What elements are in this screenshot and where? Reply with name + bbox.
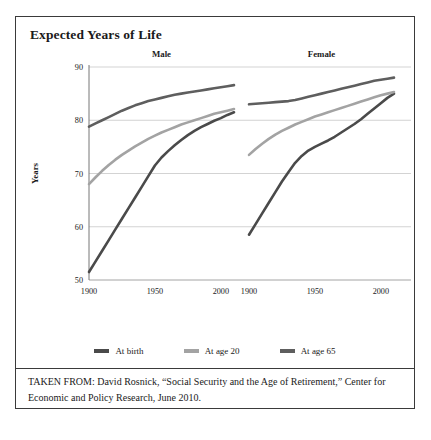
figure-title: Expected Years of Life	[30, 27, 162, 43]
legend-label: At birth	[115, 346, 143, 356]
series-line-female-at-age-65	[249, 78, 394, 105]
legend-label: At age 65	[301, 346, 336, 356]
x-tick-label-male-1950: 1950	[147, 287, 163, 296]
x-tick-label-female-1900: 1900	[241, 287, 257, 296]
legend-swatch-icon	[94, 349, 109, 352]
legend-swatch-icon	[184, 349, 199, 352]
legend-swatch-icon	[280, 349, 295, 352]
y-tick-label-50: 50	[75, 276, 83, 285]
panel-title-male: Male	[152, 49, 171, 59]
x-tick-label-male-2000: 2000	[213, 287, 229, 296]
y-tick-label-70: 70	[75, 170, 83, 179]
source-note: TAKEN FROM: David Rosnick, “Social Secur…	[28, 374, 402, 406]
y-axis-title: Years	[30, 162, 40, 184]
legend-label: At age 20	[205, 346, 240, 356]
chart-legend: At birthAt age 20At age 65	[16, 339, 414, 363]
y-tick-label-80: 80	[75, 116, 83, 125]
source-divider	[16, 368, 414, 369]
y-tick-label-60: 60	[75, 223, 83, 232]
legend-item-at-age-20[interactable]: At age 20	[184, 346, 240, 356]
x-tick-label-female-1950: 1950	[307, 287, 323, 296]
chart-plot-area: 5060708090YearsMale190019502000Female190…	[16, 47, 414, 312]
legend-item-at-birth[interactable]: At birth	[94, 346, 143, 356]
series-line-male-at-birth	[89, 112, 234, 272]
figure-container: Expected Years of Life 5060708090YearsMa…	[15, 16, 415, 409]
legend-item-at-age-65[interactable]: At age 65	[280, 346, 336, 356]
y-tick-label-90: 90	[75, 63, 83, 72]
x-tick-label-male-1900: 1900	[81, 287, 97, 296]
x-tick-label-female-2000: 2000	[373, 287, 389, 296]
panel-title-female: Female	[308, 49, 335, 59]
chart-svg: 5060708090YearsMale190019502000Female190…	[16, 47, 414, 312]
